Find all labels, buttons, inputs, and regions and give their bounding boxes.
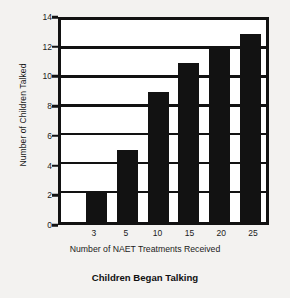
x-tick-label: 20: [205, 228, 237, 242]
x-tick-label: 5: [110, 228, 142, 242]
plot-inner: [61, 20, 266, 222]
bar-slot: [174, 20, 205, 222]
x-axis-title: Number of NAET Treatments Received: [0, 244, 290, 254]
bar-slot: [143, 20, 174, 222]
y-tick-label: 8: [30, 101, 52, 111]
bar-slot: [81, 20, 112, 222]
x-tick-label: 25: [237, 228, 269, 242]
y-tick-label: 14: [30, 12, 52, 22]
bar: [209, 49, 230, 222]
bar: [117, 150, 138, 222]
y-tick-label: 6: [30, 131, 52, 141]
bar-slot: [204, 20, 235, 222]
x-tick-label: 15: [173, 228, 205, 242]
y-tick-label: 12: [30, 42, 52, 52]
x-axis-tick-labels: 3510152025: [58, 228, 269, 242]
bar: [86, 193, 107, 222]
y-tick-label: 4: [30, 161, 52, 171]
y-tick-label: 10: [30, 71, 52, 81]
chart-title: Children Began Talking: [0, 272, 290, 283]
chart-figure: Number of Children Talked 02468101214 35…: [0, 0, 290, 298]
bar: [178, 63, 199, 222]
y-tick-label: 2: [30, 190, 52, 200]
x-tick-label: 3: [78, 228, 110, 242]
plot-area: [58, 17, 269, 225]
bar-slot: [112, 20, 143, 222]
x-tick-label: 10: [142, 228, 174, 242]
bar: [240, 34, 261, 222]
bar-series: [61, 20, 266, 222]
y-tick-label: 0: [30, 220, 52, 230]
bar: [148, 92, 169, 222]
y-axis-tick-labels: 02468101214: [26, 17, 52, 225]
bar-slot: [235, 20, 266, 222]
